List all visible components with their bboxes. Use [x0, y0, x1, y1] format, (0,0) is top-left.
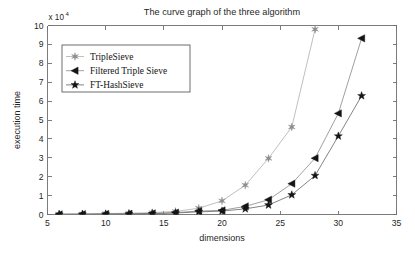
y-tick-label: 1 — [39, 191, 44, 201]
y-tick-label: 0 — [39, 210, 44, 220]
chart-figure: The curve graph of the three algorithm51… — [0, 0, 415, 256]
y-tick-label: 2 — [39, 172, 44, 182]
data-point-marker — [288, 180, 295, 187]
data-point-marker — [358, 92, 366, 100]
y-tick-label: 6 — [39, 96, 44, 106]
chart-title: The curve graph of the three algorithm — [144, 7, 301, 17]
data-point-marker — [219, 197, 226, 205]
y-tick-label: 7 — [39, 77, 44, 87]
y-axis-exponent: x 104 — [49, 11, 70, 23]
exponent-power: 4 — [66, 11, 70, 17]
data-point-marker — [311, 155, 318, 162]
x-tick-label: 30 — [334, 218, 344, 228]
y-tick-label: 10 — [34, 21, 44, 31]
data-point-marker — [334, 132, 342, 140]
x-tick-label: 10 — [101, 218, 111, 228]
y-axis-label: execution time — [12, 91, 22, 149]
data-point-marker — [288, 191, 296, 199]
legend-label: TripleSieve — [90, 52, 133, 62]
series-ft-hashsieve — [55, 92, 365, 218]
chart-canvas: The curve graph of the three algorithm51… — [0, 0, 415, 256]
y-tick-label: 5 — [39, 115, 44, 125]
x-tick-label: 20 — [217, 218, 227, 228]
legend: TripleSieveFiltered Triple SieveFT-HashS… — [62, 45, 190, 92]
x-tick-label: 5 — [45, 218, 50, 228]
data-point-marker — [312, 25, 319, 33]
x-tick-label: 35 — [392, 218, 402, 228]
x-axis-label: dimensions — [199, 233, 245, 243]
x-tick-label: 25 — [275, 218, 285, 228]
y-tick-label: 4 — [39, 134, 44, 144]
legend-label: Filtered Triple Sieve — [90, 66, 167, 76]
y-tick-label: 8 — [39, 58, 44, 68]
exponent-prefix: x 10 — [49, 13, 65, 22]
y-tick-label: 9 — [39, 39, 44, 49]
y-tick-label: 3 — [39, 153, 44, 163]
legend-label: FT-HashSieve — [90, 80, 143, 90]
x-tick-label: 15 — [159, 218, 169, 228]
data-point-marker — [334, 110, 341, 117]
